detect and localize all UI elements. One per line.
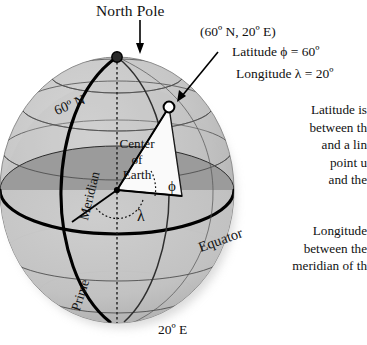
longitude-value-label: Longitude λ = 20º bbox=[236, 66, 333, 82]
latitude-description-line: between th bbox=[0, 119, 367, 137]
north-pole-arrow-head bbox=[136, 43, 144, 54]
longitude-description-line: between the bbox=[0, 240, 367, 258]
longitude-description-line: meridian of th bbox=[0, 257, 367, 275]
globe-figure: North Pole (60º N, 20º E) Latitude ϕ = 6… bbox=[0, 0, 367, 345]
latitude-value-label: Latitude ϕ = 60º bbox=[232, 44, 320, 60]
longitude-description-paragraph: Longitude between the meridian of th bbox=[0, 222, 367, 275]
longitude-description-line: Longitude bbox=[0, 222, 367, 240]
north-pole-label: North Pole bbox=[96, 2, 165, 20]
latitude-description-line: and the bbox=[0, 171, 367, 189]
coordinate-arrow-shaft bbox=[182, 52, 218, 96]
latitude-description-line: and a lin bbox=[0, 136, 367, 154]
latitude-description-paragraph: Latitude is between th and a lin point u… bbox=[0, 101, 367, 189]
bottom-meridian-label: 20º E bbox=[158, 322, 187, 338]
north-pole-dot bbox=[112, 52, 122, 62]
latitude-description-line: Latitude is bbox=[0, 101, 367, 119]
coordinate-label: (60º N, 20º E) bbox=[200, 24, 276, 40]
latitude-description-line: point u bbox=[0, 154, 367, 172]
